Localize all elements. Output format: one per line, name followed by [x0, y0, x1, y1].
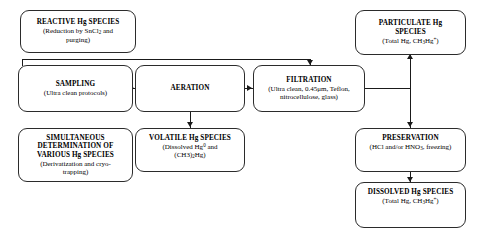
node-filtration-subtitle: (Ultra clean, 0.45μm, Teflon, nitrocellu… — [268, 85, 349, 102]
node-reactive-hg-species-title: REACTIVE Hg SPECIES — [37, 18, 120, 26]
node-preservation-subtitle: (HCl and/or HNO3, freezing) — [370, 143, 452, 152]
node-filtration-title: FILTRATION — [286, 76, 331, 84]
preservation-sub-suffix: , freezing) — [423, 143, 452, 151]
node-simultaneous-determination-subtitle: (Derivatization and cryo- trapping) — [40, 160, 111, 177]
flowchart-canvas: REACTIVE Hg SPECIES (Reduction by SnCl2 … — [0, 0, 481, 231]
edge-filtration-right-stub — [365, 88, 410, 89]
node-aeration-title: AERATION — [170, 84, 209, 92]
node-particulate-hg-species-title: PARTICULATE Hg SPECIES — [379, 19, 442, 36]
volatile-sub-prefix: (Dissolved Hg — [162, 143, 203, 151]
edge-aeration-filtration-arrowhead — [247, 85, 252, 91]
preservation-sub-prefix: (HCl and/or HNO — [370, 143, 421, 151]
node-volatile-hg-species: VOLATILE Hg SPECIES (Dissolved Hg0 and (… — [135, 128, 245, 172]
node-dissolved-hg-species: DISSOLVED Hg SPECIES (Total Hg, CH3Hg+) — [355, 182, 466, 228]
node-reactive-hg-species-subtitle: (Reduction by SnCl2 and purging) — [43, 27, 113, 44]
node-sampling-subtitle: (Ultra clean protocols) — [44, 89, 107, 97]
volatile-sub-suffix: Hg) — [195, 151, 206, 159]
node-simultaneous-determination: SIMULTANEOUS DETERMINATION OF VARIOUS Hg… — [18, 128, 133, 182]
dissolved-sub-mid: Hg — [425, 197, 434, 205]
reactive-sub-prefix: (Reduction by SnCl — [43, 27, 99, 35]
node-reactive-hg-species: REACTIVE Hg SPECIES (Reduction by SnCl2 … — [20, 10, 136, 53]
particulate-sub-prefix: (Total Hg, CH — [382, 37, 422, 45]
particulate-sub-suffix: ) — [436, 37, 438, 45]
node-volatile-hg-species-title: VOLATILE Hg SPECIES — [149, 134, 231, 142]
edge-aeration-volatile-arrowhead — [187, 122, 193, 127]
node-particulate-hg-species: PARTICULATE Hg SPECIES (Total Hg, CH3Hg+… — [355, 10, 466, 55]
node-dissolved-hg-species-subtitle: (Total Hg, CH3Hg+) — [382, 197, 438, 206]
node-sampling-title: SAMPLING — [56, 80, 96, 88]
filtration-sub-prefix: (Ultra clean, 0.45 — [268, 85, 317, 93]
dissolved-sub-suffix: ) — [436, 197, 438, 205]
particulate-sub-mid: Hg — [425, 37, 434, 45]
node-particulate-hg-species-subtitle: (Total Hg, CH3Hg+) — [382, 37, 438, 46]
node-preservation-title: PRESERVATION — [382, 134, 439, 142]
edge-filtration-preservation-arrowhead — [407, 122, 413, 127]
node-sampling: SAMPLING (Ultra clean protocols) — [18, 65, 133, 112]
edge-filtration-particulate-riser — [410, 55, 411, 88]
node-filtration: FILTRATION (Ultra clean, 0.45μm, Teflon,… — [253, 65, 365, 112]
dissolved-sub-prefix: (Total Hg, CH — [382, 197, 422, 205]
node-aeration: AERATION — [135, 65, 245, 112]
node-volatile-hg-species-subtitle: (Dissolved Hg0 and (CH3)2Hg) — [162, 143, 217, 160]
edge-sampling-filtration-span — [22, 59, 310, 60]
node-preservation: PRESERVATION (HCl and/or HNO3, freezing) — [355, 128, 466, 172]
node-simultaneous-determination-title: SIMULTANEOUS DETERMINATION OF VARIOUS Hg… — [37, 134, 114, 159]
node-dissolved-hg-species-title: DISSOLVED Hg SPECIES — [368, 188, 454, 196]
